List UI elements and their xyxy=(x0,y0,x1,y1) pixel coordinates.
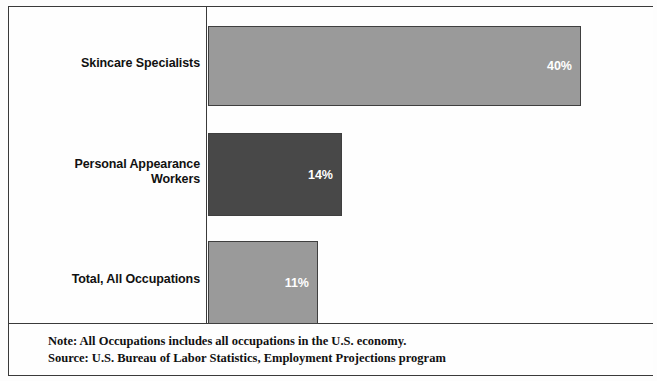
bar-skincare-specialists[interactable]: 40% xyxy=(208,26,581,106)
bar-label-line: Total, All Occupations xyxy=(72,272,200,286)
chart-plot-area: Skincare Specialists 40% Personal Appear… xyxy=(8,6,653,324)
bar-label-line: Skincare Specialists xyxy=(81,56,200,70)
bar-row-skincare-specialists: Skincare Specialists 40% xyxy=(8,20,653,106)
bar-label-total-all-occupations: Total, All Occupations xyxy=(8,272,200,287)
bar-value-total-all-occupations: 11% xyxy=(285,276,309,290)
figure-container: Skincare Specialists 40% Personal Appear… xyxy=(0,0,657,381)
footnote-source: Source: U.S. Bureau of Labor Statistics,… xyxy=(48,350,628,367)
bar-value-personal-appearance-workers: 14% xyxy=(308,168,333,182)
bar-value-skincare-specialists: 40% xyxy=(547,59,572,73)
bar-personal-appearance-workers[interactable]: 14% xyxy=(208,133,342,216)
bar-total-all-occupations[interactable]: 11% xyxy=(208,241,318,324)
bar-label-skincare-specialists: Skincare Specialists xyxy=(8,56,200,71)
bar-row-total-all-occupations: Total, All Occupations 11% xyxy=(8,235,653,324)
footnote-note: Note: All Occupations includes all occup… xyxy=(48,333,628,350)
bar-label-line: Personal Appearance xyxy=(75,157,200,171)
bar-label-line: Workers xyxy=(151,172,200,186)
bar-label-personal-appearance-workers: Personal Appearance Workers xyxy=(8,157,200,187)
bar-row-personal-appearance-workers: Personal Appearance Workers 14% xyxy=(8,127,653,216)
footnote-block: Note: All Occupations includes all occup… xyxy=(48,333,628,366)
